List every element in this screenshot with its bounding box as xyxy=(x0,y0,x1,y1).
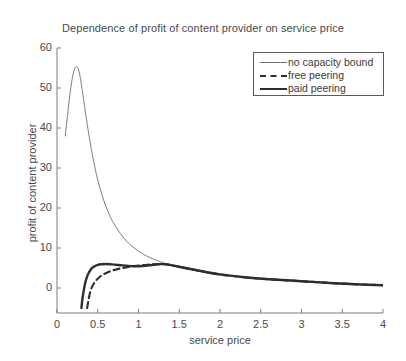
series-line xyxy=(65,67,383,285)
chart-figure: Dependence of profit of content provider… xyxy=(0,0,406,361)
legend-label: free peering xyxy=(288,69,344,81)
legend-swatch-dashed-icon xyxy=(258,69,288,81)
legend-swatch-thick-solid-icon xyxy=(258,82,288,94)
legend-item-paid-peering: paid peering xyxy=(258,81,346,94)
series-line xyxy=(87,264,383,308)
legend-item-free-peering: free peering xyxy=(258,68,344,81)
chart-legend: no capacity bound free peering paid peer… xyxy=(253,52,384,96)
legend-swatch-thin-solid-icon xyxy=(258,56,288,68)
legend-label: no capacity bound xyxy=(288,56,373,68)
legend-item-no-capacity-bound: no capacity bound xyxy=(258,55,373,68)
series-group xyxy=(65,67,383,308)
legend-label: paid peering xyxy=(288,82,346,94)
series-line xyxy=(81,264,383,308)
